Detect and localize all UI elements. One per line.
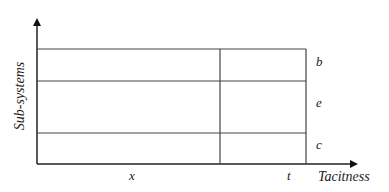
row-label-e: e: [316, 95, 322, 110]
row-label-c: c: [316, 137, 322, 152]
y-axis-label: Sub-systems: [12, 61, 27, 130]
column-label-t: t: [287, 168, 291, 183]
row-label-b: b: [316, 54, 323, 69]
x-axis-label: Tacitness: [318, 169, 370, 184]
tacitness-subsystems-diagram: Sub-systems Tacitness b e c x t: [0, 0, 389, 192]
column-label-x: x: [128, 168, 135, 183]
